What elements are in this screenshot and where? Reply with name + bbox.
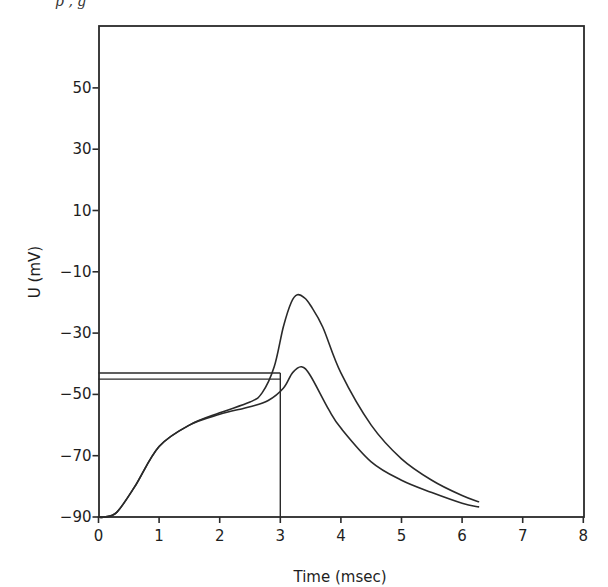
data-series <box>99 295 479 518</box>
upper-response-curve <box>99 295 479 518</box>
chart-svg: p , g 012345678 503010−10−30−50−70−90 Ti… <box>0 0 608 587</box>
lower-response-curve <box>99 367 479 518</box>
x-tick-label: 2 <box>215 527 225 545</box>
x-tick-label: 7 <box>518 527 528 545</box>
y-axis: 503010−10−30−50−70−90 <box>60 79 99 526</box>
cropped-caption-fragment: p , g <box>55 0 86 9</box>
y-tick-label: −30 <box>60 324 92 342</box>
y-tick-label: −10 <box>60 263 92 281</box>
x-tick-label: 5 <box>397 527 407 545</box>
y-tick-label: 50 <box>72 79 91 97</box>
x-tick-label: 3 <box>276 527 286 545</box>
x-tick-label: 4 <box>336 527 346 545</box>
y-tick-label: −70 <box>60 447 92 465</box>
y-axis-label: U (mV) <box>26 246 44 298</box>
x-axis: 012345678 <box>94 517 588 545</box>
x-axis-label: Time (msec) <box>292 568 386 586</box>
stimulus-markers <box>99 373 281 517</box>
y-tick-label: −90 <box>60 508 92 526</box>
x-tick-label: 0 <box>94 527 104 545</box>
y-tick-label: 10 <box>72 202 91 220</box>
x-tick-label: 1 <box>154 527 164 545</box>
x-tick-label: 8 <box>579 527 589 545</box>
x-tick-label: 6 <box>457 527 467 545</box>
y-tick-label: 30 <box>72 140 91 158</box>
plot-frame <box>99 26 584 517</box>
y-tick-label: −50 <box>60 385 92 403</box>
